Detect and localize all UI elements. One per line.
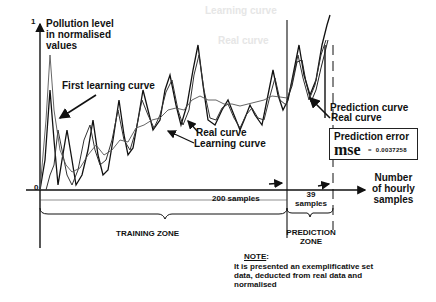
prediction-zone-brace (287, 208, 333, 217)
real-curve-right-label: Real curve (331, 112, 382, 123)
first-learning-curve-label: First learning curve (62, 80, 155, 91)
prediction-error-box: Prediction error mse = 0.0037258 (329, 128, 418, 160)
y-tick-one: 1 (31, 17, 35, 26)
learning-curve-line (46, 40, 326, 190)
note-heading: NOTE: (244, 252, 269, 261)
y-axis-label: Pollution level in normalised values (46, 18, 114, 51)
training-zone-brace (40, 208, 287, 219)
mse-label: mse (334, 142, 361, 158)
training-zone-label: TRAINING ZONE (116, 229, 179, 238)
real-curve-label: Real curve (196, 127, 247, 138)
prediction-samples-count: 39 samples (290, 190, 332, 208)
training-samples-count: 200 samples (212, 194, 260, 203)
mse-value: = 0.0037258 (368, 147, 407, 153)
learning-curve-label: Learning curve (194, 138, 266, 149)
first-learning-curve-line (40, 55, 287, 190)
note-text: It is presented an exemplificative set d… (234, 262, 373, 289)
x-axis-label: Number of hourly samples (372, 172, 415, 205)
prediction-zone-label: PREDICTION ZONE (286, 228, 336, 246)
y-tick-zero: 0 (34, 183, 38, 192)
